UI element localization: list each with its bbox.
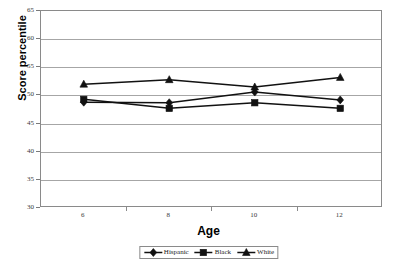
y-axis-tick-label: 60 bbox=[0, 34, 34, 42]
series-white bbox=[80, 73, 344, 90]
x-axis-title: Age bbox=[0, 224, 417, 238]
x-axis-tick-label: 8 bbox=[148, 211, 188, 219]
y-axis-tick-label: 45 bbox=[0, 119, 34, 127]
series-layer bbox=[41, 11, 383, 208]
data-point-triangle bbox=[336, 73, 344, 80]
legend-marker-diamond-icon bbox=[143, 248, 163, 257]
y-axis-tick-label: 55 bbox=[0, 62, 34, 70]
legend-label: Hispanic bbox=[164, 248, 189, 257]
y-axis-tick-label: 65 bbox=[0, 6, 34, 14]
legend-marker-triangle-icon bbox=[236, 248, 256, 257]
data-point-diamond bbox=[337, 96, 344, 104]
series-hispanic bbox=[80, 88, 343, 107]
x-axis-tick-mark bbox=[126, 207, 127, 211]
data-point-square bbox=[252, 100, 258, 106]
y-axis-tick-label: 40 bbox=[0, 147, 34, 155]
line-chart: Score percentile 6560555045403530 681012… bbox=[0, 0, 417, 265]
x-axis-tick-label: 6 bbox=[63, 211, 103, 219]
x-axis-tick-label: 12 bbox=[319, 211, 359, 219]
data-point-square bbox=[166, 105, 172, 111]
series-line bbox=[84, 92, 341, 103]
legend-label: Black bbox=[215, 248, 231, 257]
legend-label: White bbox=[257, 248, 274, 257]
series-line bbox=[84, 77, 341, 87]
data-point-diamond bbox=[149, 249, 156, 257]
legend-item-black[interactable]: Black bbox=[194, 248, 231, 257]
y-axis-tick-label: 35 bbox=[0, 175, 34, 183]
y-axis-tick-label: 30 bbox=[0, 203, 34, 211]
chart-legend: HispanicBlackWhite bbox=[139, 246, 278, 259]
legend-item-hispanic[interactable]: Hispanic bbox=[143, 248, 189, 257]
x-axis-tick-mark bbox=[297, 207, 298, 211]
data-point-square bbox=[81, 96, 87, 102]
x-axis-tick-label: 10 bbox=[234, 211, 274, 219]
data-point-square bbox=[337, 105, 343, 111]
series-black bbox=[81, 96, 344, 111]
plot-area bbox=[40, 10, 382, 207]
series-line bbox=[84, 99, 341, 108]
legend-marker-square-icon bbox=[194, 248, 214, 257]
y-axis-tick-mark bbox=[36, 207, 40, 208]
y-axis-tick-label: 50 bbox=[0, 90, 34, 98]
x-axis-tick-mark bbox=[211, 207, 212, 211]
legend-item-white[interactable]: White bbox=[236, 248, 274, 257]
data-point-square bbox=[201, 249, 207, 255]
